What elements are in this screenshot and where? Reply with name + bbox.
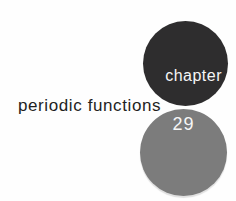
chapter-title-page: periodic functions chapter 29 bbox=[0, 0, 236, 201]
chapter-title: periodic functions bbox=[18, 97, 161, 114]
chapter-badge-circle: chapter bbox=[143, 21, 228, 106]
chapter-number-circle: 29 bbox=[140, 109, 227, 196]
chapter-number: 29 bbox=[140, 115, 227, 133]
chapter-badge-label: chapter bbox=[165, 68, 222, 84]
